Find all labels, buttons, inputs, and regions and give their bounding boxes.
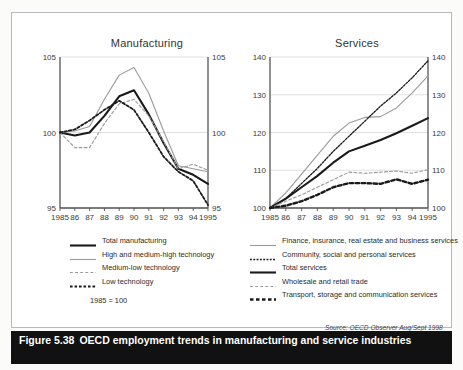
legend-item: Finance, insurance, real estate and busi…	[250, 235, 463, 246]
legend-item: Low technology	[70, 276, 245, 287]
x-tick-label: 1985	[51, 213, 69, 222]
legend-line-swatch	[70, 277, 96, 286]
legend-line-swatch	[70, 263, 96, 272]
chart-services: 1001001101101201201301301401401985868788…	[244, 53, 454, 228]
y-tick-label-right: 140	[432, 53, 446, 62]
data-series-line	[60, 68, 208, 172]
legend-item-label: Finance, insurance, real estate and busi…	[282, 236, 458, 245]
x-tick-label: 1995	[419, 213, 437, 222]
y-tick-label-left: 140	[253, 53, 267, 62]
base-year-note: 1985 = 100	[90, 296, 127, 305]
legend-item-label: High and medium-high technology	[102, 250, 214, 259]
x-tick-label: 88	[100, 213, 109, 222]
x-tick-label: 87	[85, 213, 94, 222]
y-tick-label-left: 110	[253, 166, 266, 175]
y-tick-label-right: 130	[432, 91, 446, 100]
legend-services: Finance, insurance, real estate and busi…	[250, 235, 463, 303]
data-series-line	[270, 61, 428, 208]
figure-page: Manufacturing Services 95951001001051051…	[0, 0, 463, 370]
y-tick-label-right: 120	[432, 129, 446, 138]
legend-item-label: Total services	[282, 263, 327, 272]
legend-item-label: Total manufacturing	[102, 236, 167, 245]
x-tick-label: 94	[408, 213, 417, 222]
legend-item: Total services	[250, 262, 463, 273]
x-tick-label: 86	[281, 213, 290, 222]
x-tick-label: 89	[329, 213, 338, 222]
legend-item: Medium-low technology	[70, 262, 245, 273]
legend-manufacturing: Total manufacturingHigh and medium-high …	[70, 235, 245, 289]
x-tick-label: 86	[70, 213, 79, 222]
legend-item: High and medium-high technology	[70, 249, 245, 260]
legend-item: Total manufacturing	[70, 235, 245, 246]
data-series-line	[60, 90, 208, 184]
x-tick-label: 89	[115, 213, 124, 222]
x-tick-label: 94	[189, 213, 198, 222]
figure-number: Figure 5.38	[19, 334, 74, 346]
chart-title-manufacturing: Manufacturing	[57, 37, 237, 49]
legend-line-swatch	[250, 250, 276, 259]
figure-panel: Manufacturing Services 95951001001051051…	[11, 12, 452, 328]
y-tick-label-left: 130	[253, 91, 267, 100]
x-tick-label: 93	[174, 213, 183, 222]
legend-line-swatch	[70, 236, 96, 245]
legend-item-label: Medium-low technology	[102, 263, 180, 272]
legend-item-label: Transport, storage and communication ser…	[282, 290, 437, 299]
data-series-line	[270, 169, 428, 208]
chart-title-services: Services	[267, 37, 447, 49]
plot-area: 9595100100105105198586878889909192939419…	[34, 53, 234, 228]
legend-item-label: Low technology	[102, 277, 153, 286]
chart-manufacturing: 9595100100105105198586878889909192939419…	[34, 53, 234, 228]
figure-caption: Figure 5.38OECD employment trends in man…	[11, 331, 452, 364]
y-tick-label-left: 100	[43, 129, 57, 138]
x-tick-label: 1985	[261, 213, 279, 222]
legend-line-swatch	[250, 263, 276, 272]
y-tick-label-left: 120	[253, 129, 267, 138]
legend-item: Community, social and personal services	[250, 249, 463, 260]
legend-line-swatch	[250, 236, 276, 245]
x-tick-label: 91	[360, 213, 369, 222]
legend-item-label: Wholesale and retail trade	[282, 277, 368, 286]
x-tick-label: 91	[144, 213, 153, 222]
x-tick-label: 88	[313, 213, 322, 222]
plot-area: 1001001101101201201301301401401985868788…	[244, 53, 454, 228]
legend-item-label: Community, social and personal services	[282, 250, 416, 259]
legend-line-swatch	[250, 290, 276, 299]
legend-item: Wholesale and retail trade	[250, 276, 463, 287]
x-tick-label: 92	[376, 213, 385, 222]
source-attribution: Source: OECD Observer Aug/Sept 1998	[325, 324, 443, 331]
x-tick-label: 93	[392, 213, 401, 222]
y-tick-label-left: 105	[43, 53, 57, 62]
legend-line-swatch	[70, 250, 96, 259]
legend-line-swatch	[250, 277, 276, 286]
data-series-line	[60, 101, 208, 205]
x-tick-label: 1995	[199, 213, 217, 222]
data-series-line	[270, 118, 428, 208]
y-tick-label-right: 95	[212, 204, 221, 213]
y-tick-label-right: 105	[212, 53, 226, 62]
y-tick-label-right: 100	[432, 204, 446, 213]
legend-item: Transport, storage and communication ser…	[250, 289, 463, 300]
x-tick-label: 87	[297, 213, 306, 222]
y-tick-label-right: 110	[432, 166, 445, 175]
y-tick-label-left: 100	[253, 204, 267, 213]
data-series-line	[270, 76, 428, 208]
x-tick-label: 90	[345, 213, 354, 222]
y-tick-label-right: 100	[212, 129, 226, 138]
x-tick-label: 90	[130, 213, 139, 222]
y-tick-label-left: 95	[47, 204, 56, 213]
x-tick-label: 92	[159, 213, 168, 222]
figure-caption-text: OECD employment trends in manufacturing …	[79, 334, 411, 346]
